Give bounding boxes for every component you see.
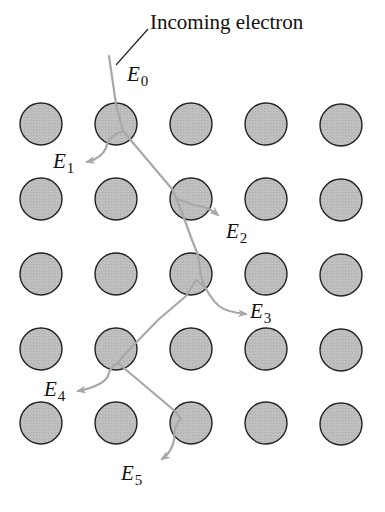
atom [170,328,212,370]
atom [245,402,287,444]
atom [320,179,362,221]
atom [95,402,137,444]
energy-label-e2: E2 [225,219,247,246]
energy-labels: E0E1E2E3E4E5 [43,62,271,488]
atom [320,254,362,296]
atom [20,103,62,145]
title-label: Incoming electron [150,10,304,34]
atom [320,329,362,371]
atom [170,103,212,145]
atom [320,104,362,146]
atom [245,328,287,370]
atom [20,328,62,370]
atom [170,402,212,444]
atom [245,178,287,220]
title-leader-line [116,29,148,65]
secondary-e4 [78,363,118,391]
atom [20,402,62,444]
energy-label-e5: E5 [120,461,142,488]
energy-label-e1: E1 [52,149,74,176]
atom [20,178,62,220]
secondary-e3 [205,287,246,314]
energy-label-e3: E3 [249,299,271,326]
atom-lattice [20,103,362,445]
atom [245,103,287,145]
energy-label-e0: E0 [126,62,148,89]
energy-label-e4: E4 [43,377,66,404]
atom [95,253,137,295]
atom [95,178,137,220]
atom [320,403,362,445]
atom [245,253,287,295]
atom [20,253,62,295]
electron-scattering-diagram: Incoming electron E0E1E2E3E4E5 [0,0,385,512]
